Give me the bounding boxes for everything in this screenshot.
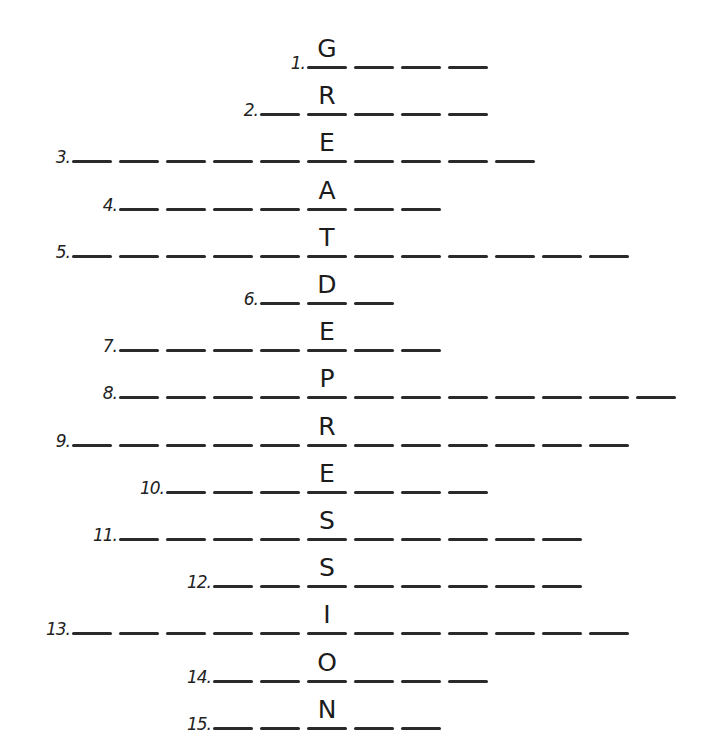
answer-blank[interactable] [448,680,488,683]
answer-blank[interactable] [448,113,488,116]
answer-blank[interactable] [401,727,441,730]
answer-blank[interactable] [260,113,300,116]
answer-blank[interactable] [354,680,394,683]
answer-blank[interactable] [589,444,629,447]
answer-blank[interactable] [401,491,441,494]
answer-blank[interactable] [354,208,394,211]
answer-blank[interactable] [166,255,206,258]
answer-blank[interactable] [401,680,441,683]
answer-blank[interactable] [72,632,112,635]
answer-blank[interactable] [542,444,582,447]
answer-blank[interactable] [166,632,206,635]
answer-blank[interactable] [72,444,112,447]
answer-blank[interactable] [354,302,394,305]
answer-blank[interactable] [448,632,488,635]
answer-blank[interactable] [72,160,112,163]
answer-blank[interactable] [72,255,112,258]
answer-blank[interactable] [213,632,253,635]
answer-blank[interactable] [354,396,394,399]
answer-blank[interactable] [260,680,300,683]
answer-blank[interactable] [495,255,535,258]
answer-blank[interactable] [448,66,488,69]
answer-blank[interactable] [354,727,394,730]
answer-blank[interactable] [213,491,253,494]
answer-blank[interactable] [401,208,441,211]
answer-blank[interactable] [354,444,394,447]
answer-blank[interactable] [260,632,300,635]
answer-blank[interactable] [401,160,441,163]
answer-blank[interactable] [213,585,253,588]
answer-blank[interactable] [401,444,441,447]
answer-blank[interactable] [354,632,394,635]
answer-blank[interactable] [401,349,441,352]
answer-blank[interactable] [119,160,159,163]
answer-blank[interactable] [354,160,394,163]
answer-blank[interactable] [354,585,394,588]
answer-blank[interactable] [213,538,253,541]
answer-blank[interactable] [166,349,206,352]
answer-blank[interactable] [213,396,253,399]
answer-blank[interactable] [260,349,300,352]
answer-blank[interactable] [354,255,394,258]
answer-blank[interactable] [166,208,206,211]
answer-blank[interactable] [260,396,300,399]
answer-blank[interactable] [401,396,441,399]
answer-blank[interactable] [448,538,488,541]
answer-blank[interactable] [213,727,253,730]
answer-blank[interactable] [213,255,253,258]
answer-blank[interactable] [448,444,488,447]
answer-blank[interactable] [260,208,300,211]
answer-blank[interactable] [495,632,535,635]
answer-blank[interactable] [119,444,159,447]
answer-blank[interactable] [119,349,159,352]
answer-blank[interactable] [260,302,300,305]
answer-blank[interactable] [213,208,253,211]
answer-blank[interactable] [166,538,206,541]
answer-blank[interactable] [589,396,629,399]
answer-blank[interactable] [260,255,300,258]
answer-blank[interactable] [260,585,300,588]
answer-blank[interactable] [166,396,206,399]
answer-blank[interactable] [401,538,441,541]
answer-blank[interactable] [542,396,582,399]
answer-blank[interactable] [119,538,159,541]
answer-blank[interactable] [119,255,159,258]
answer-blank[interactable] [495,160,535,163]
answer-blank[interactable] [589,632,629,635]
answer-blank[interactable] [354,66,394,69]
answer-blank[interactable] [119,396,159,399]
answer-blank[interactable] [495,538,535,541]
answer-blank[interactable] [354,349,394,352]
answer-blank[interactable] [260,160,300,163]
answer-blank[interactable] [636,396,676,399]
answer-blank[interactable] [401,66,441,69]
answer-blank[interactable] [542,538,582,541]
answer-blank[interactable] [542,632,582,635]
answer-blank[interactable] [448,491,488,494]
answer-blank[interactable] [542,255,582,258]
answer-blank[interactable] [260,538,300,541]
answer-blank[interactable] [448,585,488,588]
answer-blank[interactable] [260,444,300,447]
answer-blank[interactable] [495,585,535,588]
answer-blank[interactable] [495,444,535,447]
answer-blank[interactable] [213,680,253,683]
answer-blank[interactable] [213,160,253,163]
answer-blank[interactable] [166,160,206,163]
answer-blank[interactable] [354,538,394,541]
answer-blank[interactable] [213,444,253,447]
answer-blank[interactable] [448,160,488,163]
answer-blank[interactable] [589,255,629,258]
answer-blank[interactable] [354,113,394,116]
answer-blank[interactable] [448,396,488,399]
answer-blank[interactable] [260,491,300,494]
answer-blank[interactable] [354,491,394,494]
answer-blank[interactable] [448,255,488,258]
answer-blank[interactable] [542,585,582,588]
answer-blank[interactable] [401,113,441,116]
answer-blank[interactable] [401,585,441,588]
answer-blank[interactable] [495,396,535,399]
answer-blank[interactable] [401,255,441,258]
answer-blank[interactable] [166,491,206,494]
answer-blank[interactable] [213,349,253,352]
